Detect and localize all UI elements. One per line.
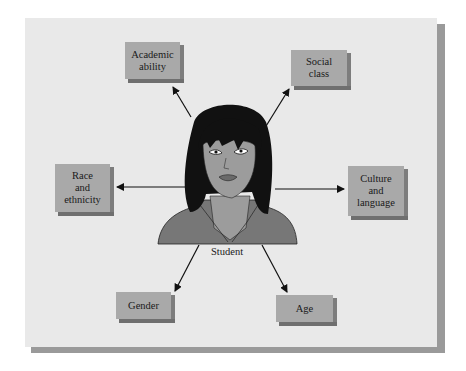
box-face: Gender [116,292,171,319]
factor-label-line: Gender [128,300,159,312]
arrow-gender [175,245,199,291]
factor-label-line: Race [72,170,93,182]
factor-label-line: Social [306,56,332,68]
factor-label-line: ethnicity [64,194,101,206]
box-bottom [58,212,114,216]
factor-label-line: class [309,68,329,80]
factor-label-line: Age [296,303,314,315]
factor-label-line: and [368,185,383,197]
box-face: Academic ability [125,42,180,79]
factor-box-age: Age [276,295,337,326]
factor-box-academic-ability: Academic ability [125,42,184,83]
box-side [180,45,184,83]
factor-box-race-ethnicity: Race and ethnicity [55,164,114,216]
box-face: Age [276,295,333,322]
factor-label-line: language [357,197,395,209]
box-side [404,169,408,220]
box-bottom [119,319,175,323]
factor-box-social-class: Social class [291,50,351,90]
factor-label-line: Academic [131,49,174,61]
student-label: Student [211,246,243,257]
box-side [110,167,114,216]
box-bottom [279,322,337,326]
factor-box-culture-language: Culture and language [348,166,408,220]
arrow-age [262,245,287,292]
box-bottom [294,86,351,90]
factor-label-line: ability [139,61,166,73]
student-portrait-icon [158,105,297,244]
box-side [347,53,351,90]
box-face: Race and ethnicity [55,164,110,212]
arrow-academic-ability [173,87,191,117]
box-face: Social class [291,50,347,86]
box-face: Culture and language [348,166,404,216]
factor-label-line: Culture [360,173,392,185]
factor-label-line: and [75,182,90,194]
factor-box-gender: Gender [116,292,175,323]
box-bottom [128,79,184,83]
box-bottom [351,216,408,220]
